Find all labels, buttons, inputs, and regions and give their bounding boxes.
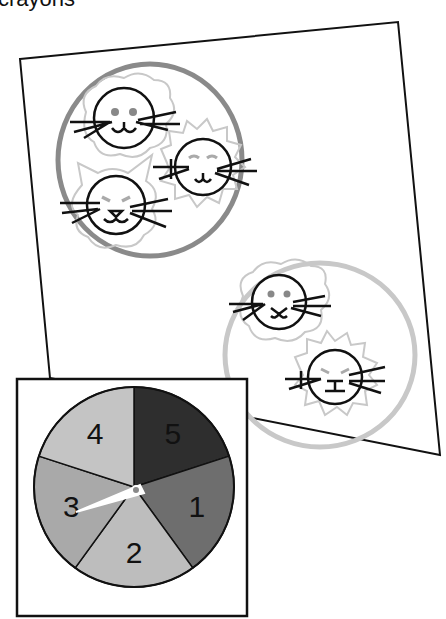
spinner-section-label: 1	[188, 490, 205, 523]
illustration: 51234	[0, 0, 446, 619]
spinner-section-label: 2	[126, 536, 143, 569]
spinner-hub	[132, 486, 140, 494]
spinner-section-label: 5	[164, 417, 181, 450]
spinner-section-label: 4	[87, 417, 104, 450]
spinner-section-label: 3	[63, 490, 80, 523]
spinner[interactable]: 51234	[17, 379, 247, 616]
